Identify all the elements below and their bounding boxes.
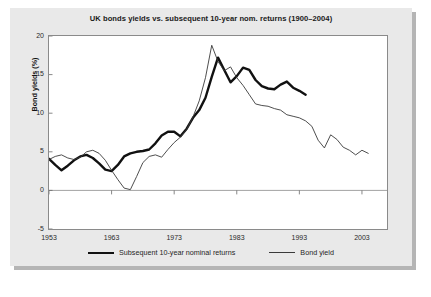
series-line-1: [49, 45, 368, 189]
x-tick-label: 1973: [154, 234, 194, 241]
y-tick-label: 0: [22, 186, 44, 193]
y-tick-label: 5: [22, 147, 44, 154]
legend-line-thick-icon: [88, 252, 114, 254]
y-tick-label: 10: [22, 109, 44, 116]
y-tick-label: -5: [22, 225, 44, 232]
legend-label-returns: Subsequent 10-year nominal returns: [119, 248, 235, 257]
series-line-0: [49, 58, 306, 171]
x-tick-label: 1983: [217, 234, 257, 241]
plot-area: [48, 35, 388, 230]
legend-label-bond-yield: Bond yield: [300, 248, 334, 257]
chart-legend: Subsequent 10-year nominal returns Bond …: [10, 248, 412, 257]
y-tick-label: 20: [22, 32, 44, 39]
x-tick-label: 1953: [29, 234, 69, 241]
chart-panel: UK bonds yields vs. subsequent 10-year n…: [10, 8, 412, 266]
x-tick-label: 1993: [279, 234, 319, 241]
x-axis-tick-labels: 195319631973198319932003: [48, 234, 388, 246]
y-tick-label: 15: [22, 70, 44, 77]
y-axis-tick-labels: -505101520: [18, 35, 44, 230]
legend-item-bond-yield: Bond yield: [269, 248, 334, 257]
x-tick-label: 2003: [342, 234, 382, 241]
plot-svg: [49, 36, 387, 229]
x-tick-label: 1963: [92, 234, 132, 241]
legend-line-thin-icon: [269, 252, 295, 253]
chart-title: UK bonds yields vs. subsequent 10-year n…: [10, 14, 412, 23]
chart-page: UK bonds yields vs. subsequent 10-year n…: [0, 0, 431, 297]
legend-item-returns: Subsequent 10-year nominal returns: [88, 248, 235, 257]
